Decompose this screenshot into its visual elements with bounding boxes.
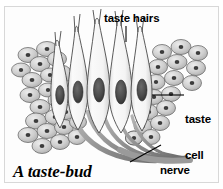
taste-cell-1: [68, 26, 88, 130]
label-taste-cell-line1: taste: [185, 113, 211, 125]
label-taste-hairs: taste hairs: [104, 12, 159, 24]
figure-page: taste hairs taste cell nerve fibres A ta…: [0, 0, 223, 189]
figure-caption: A taste-bud: [13, 162, 92, 182]
taste-cell-3: [109, 20, 132, 133]
label-nerve-fibres: nerve fibres: [160, 140, 190, 189]
taste-cell-2: [87, 18, 110, 133]
label-nerve-fibres-line1: nerve: [160, 164, 190, 176]
taste-cell-4: [131, 26, 152, 131]
